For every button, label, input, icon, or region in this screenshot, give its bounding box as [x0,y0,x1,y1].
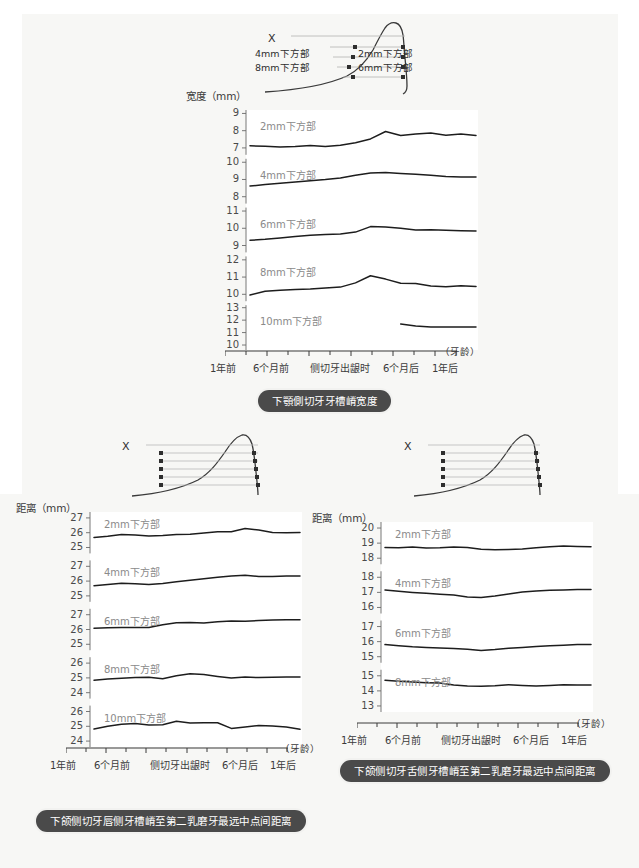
series-label-br-3: 8mm下方部 [395,674,451,689]
y-tick-br-0-20: 20 [354,523,374,533]
x-axis-bottom-right [357,721,587,731]
series-label-br-1: 4mm下方部 [395,575,451,590]
y-tick-br-3-13: 13 [354,701,374,711]
x-axis-title-bottom-right: （牙龄） [571,716,611,730]
x-tick-br-2: 侧切牙出龈时 [441,732,501,747]
y-tick-br-1-17: 17 [354,587,374,597]
chart-bottom-right-lingual-distance: X 距离（mm） 201918181716171615151413 2mm下方部… [0,0,639,868]
y-tick-br-3-15: 15 [354,671,374,681]
series-label-br-0: 2mm下方部 [395,526,451,541]
tooth-diagram-bottom-right [412,432,587,502]
series-label-br-2: 6mm下方部 [395,625,451,640]
y-tick-br-0-18: 18 [354,553,374,563]
y-tick-br-3-14: 14 [354,686,374,696]
y-tick-br-2-15: 15 [354,652,374,662]
y-tick-br-2-16: 16 [354,637,374,647]
plot-area-bottom-right [353,522,593,712]
x-tick-br-0: 1年前 [341,732,367,747]
y-tick-br-1-18: 18 [354,572,374,582]
x-tick-br-4: 1年后 [561,732,587,747]
x-tick-br-3: 6个月后 [513,732,549,747]
y-tick-br-2-17: 17 [354,622,374,632]
caption-bottom-right: 下颌侧切牙舌侧牙槽嵴至第二乳磨牙最远中点间距离 [340,760,610,782]
diagram-x-mark-bottom-right: X [404,440,412,453]
y-tick-br-1-16: 16 [354,602,374,612]
x-tick-br-1: 6个月前 [385,732,421,747]
y-tick-br-0-19: 19 [354,538,374,548]
figure-page: X 4mm下方部 8mm下方部 2mm下方部 6mm下方部 宽度（mm） 987… [0,0,639,868]
